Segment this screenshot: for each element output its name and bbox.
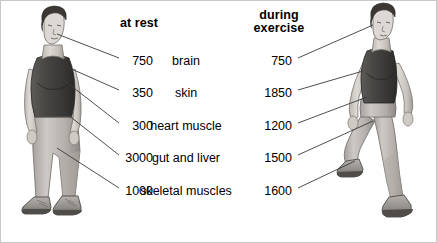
illustration-canvas	[1, 1, 437, 243]
leader-line-brain-right	[298, 25, 373, 58]
leader-line-brain-left	[57, 34, 119, 58]
running-woman-figure	[337, 3, 413, 217]
blood-flow-diagram: at rest during exercise 750 brain 750 35…	[0, 0, 437, 243]
standing-woman-figure	[22, 6, 82, 215]
